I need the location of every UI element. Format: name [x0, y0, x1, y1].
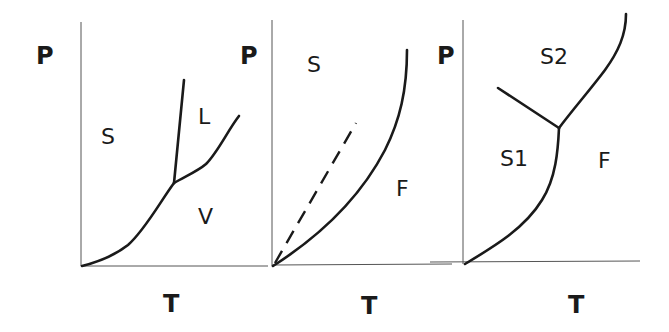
s2-fluid-boundary [559, 14, 626, 128]
region-solid-label: S [307, 52, 321, 77]
region-vapor-label: V [198, 204, 213, 229]
t-axis-label: T [361, 292, 378, 320]
region-fluid-label: F [396, 176, 409, 201]
region-solid-label: S [101, 124, 115, 149]
sublimation-curve [82, 183, 174, 266]
panel-1-solid-liquid-vapor: P T S L V [36, 22, 268, 318]
p-axis-label: P [437, 42, 455, 70]
region-s2-label: S2 [540, 44, 568, 69]
region-s1-label: S1 [500, 146, 528, 171]
melting-line [174, 80, 184, 183]
p-axis-label: P [36, 42, 54, 70]
t-axis-label: T [568, 291, 585, 319]
dashed-reference-line [275, 123, 356, 263]
panel-2-solid-fluid: P T S F [240, 20, 452, 320]
t-axis [272, 264, 452, 265]
phase-diagrams: P T S L V P T S F P T S2 S1 F [0, 0, 669, 332]
t-axis-label: T [163, 290, 180, 318]
region-liquid-label: L [198, 104, 211, 129]
s1-s2-boundary [498, 88, 559, 128]
panel-3-two-solids-fluid: P T S2 S1 F [430, 14, 640, 319]
region-fluid-label: F [598, 148, 611, 173]
t-axis [430, 261, 640, 262]
p-axis-label: P [240, 42, 258, 70]
